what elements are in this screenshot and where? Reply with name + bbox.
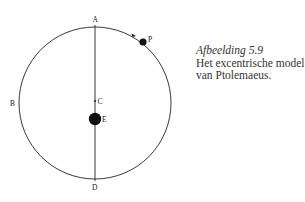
center-point-c xyxy=(94,100,96,102)
label-d: D xyxy=(92,183,98,192)
label-p: P xyxy=(148,35,152,44)
excentric-model-diagram: A B C D E P xyxy=(0,0,200,202)
label-b: B xyxy=(10,99,15,108)
label-a: A xyxy=(93,15,99,24)
figure-caption: Afbeelding 5.9 Het excentrische model va… xyxy=(196,44,305,82)
label-c: C xyxy=(98,97,103,106)
caption-line-1: Het excentrische model xyxy=(196,57,305,70)
planet-p xyxy=(139,38,146,45)
figure-number: Afbeelding 5.9 xyxy=(196,44,305,57)
earth-e xyxy=(89,113,101,125)
label-e: E xyxy=(102,115,107,124)
caption-line-2: van Ptolemaeus. xyxy=(196,69,305,82)
